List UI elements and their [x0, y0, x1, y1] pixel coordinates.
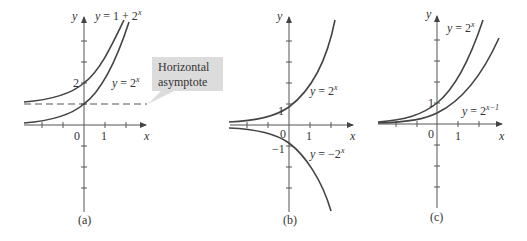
y-tick-neg1-label: −1	[272, 142, 285, 156]
callout-line-2: asymptote	[158, 75, 223, 90]
y-axis-label: y	[276, 9, 283, 23]
horizontal-asymptote-callout: Horizontal asymptote	[152, 57, 223, 91]
curve-2-pow-x	[24, 22, 129, 123]
x-axis-label: x	[498, 129, 505, 143]
y-axis	[81, 17, 87, 212]
caption-c: (c)	[430, 210, 443, 224]
callout-line-1: Horizontal	[158, 60, 223, 75]
curve-label-neg-2x: y = −2x	[309, 146, 345, 161]
panel-b: y x 0 1 1 −1 y = 2x y = −2x (b)	[229, 9, 356, 227]
x-axis-label: x	[349, 129, 356, 143]
curve-label-2x-minus-1: y = 2x−1	[461, 103, 499, 118]
origin-label: 0	[280, 127, 286, 141]
curve-label-1-plus-2x: y = 1 + 2x	[94, 8, 142, 23]
origin-label: 0	[74, 129, 80, 143]
curve-label-2x: y = 2x	[446, 20, 475, 35]
x-tick-1-label: 1	[306, 129, 312, 143]
y-tick-1-label: 1	[278, 104, 284, 118]
y-axis	[286, 17, 292, 212]
x-axis	[24, 122, 146, 128]
x-tick-1-label: 1	[101, 129, 107, 143]
y-tick-1-label: 1	[428, 96, 434, 110]
caption-b: (b)	[283, 213, 297, 227]
caption-a: (a)	[78, 213, 91, 227]
y-axis-label: y	[71, 9, 78, 23]
origin-label: 0	[428, 127, 434, 141]
y-tick-2-label: 2	[73, 76, 79, 90]
figure-canvas: y x 0 1 2 y = 1 + 2x y = 2x (a)	[0, 0, 527, 241]
panel-c: y x 0 1 1 y = 2x y = 2x−1 (c)	[378, 7, 505, 224]
curve-label-2x: y = 2x	[111, 75, 140, 90]
x-tick-1-label: 1	[455, 129, 461, 143]
x-axis	[230, 122, 353, 128]
x-axis-label: x	[143, 129, 150, 143]
callout-pointer	[148, 90, 176, 104]
panel-a: y x 0 1 2 y = 1 + 2x y = 2x (a)	[24, 8, 176, 227]
y-axis-label: y	[425, 7, 432, 21]
curve-label-2x: y = 2x	[309, 83, 338, 98]
